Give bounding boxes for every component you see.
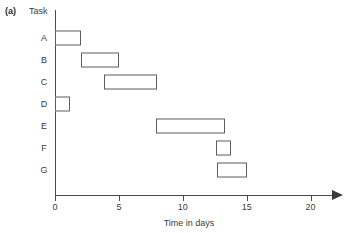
x-axis-tick-label: 5 xyxy=(116,202,121,212)
gantt-bar xyxy=(81,53,119,68)
gantt-bar xyxy=(55,97,70,112)
y-axis-task-label: D xyxy=(38,99,50,109)
y-axis-task-label: E xyxy=(38,121,50,131)
x-axis-tick-label: 10 xyxy=(178,202,188,212)
x-axis-tick xyxy=(247,196,248,201)
gantt-bar xyxy=(156,119,225,134)
x-axis-line xyxy=(55,195,335,196)
gantt-bar xyxy=(55,31,81,46)
y-axis-task-label: G xyxy=(38,165,50,175)
y-axis-task-label: F xyxy=(38,143,50,153)
gantt-bar xyxy=(104,75,158,90)
x-axis-title: Time in days xyxy=(0,218,350,228)
x-axis-tick-label: 0 xyxy=(52,202,57,212)
x-axis-tick xyxy=(55,196,56,201)
x-axis-tick xyxy=(311,196,312,201)
x-axis-tick-label: 20 xyxy=(306,202,316,212)
gantt-bar xyxy=(217,163,246,178)
plot-area: 05101520ABCDEFG xyxy=(0,0,350,233)
gantt-chart-figure: (a) Task 05101520ABCDEFG Time in days xyxy=(0,0,350,233)
y-axis-task-label: C xyxy=(38,77,50,87)
y-axis-task-label: B xyxy=(38,55,50,65)
x-axis-arrow-icon xyxy=(332,190,343,200)
x-axis-tick xyxy=(119,196,120,201)
x-axis-tick xyxy=(183,196,184,201)
y-axis-task-label: A xyxy=(38,33,50,43)
gantt-bar xyxy=(216,141,231,156)
x-axis-title-text: Time in days xyxy=(164,218,215,228)
x-axis-tick-label: 15 xyxy=(242,202,252,212)
